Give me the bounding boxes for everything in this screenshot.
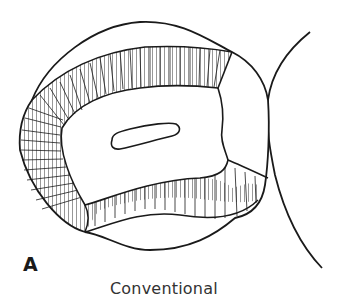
adjacent-tooth-outline bbox=[267, 32, 322, 268]
panel-label: A bbox=[23, 253, 38, 275]
figure-caption: Conventional bbox=[110, 279, 218, 298]
tooth-preparation-diagram bbox=[0, 0, 355, 301]
